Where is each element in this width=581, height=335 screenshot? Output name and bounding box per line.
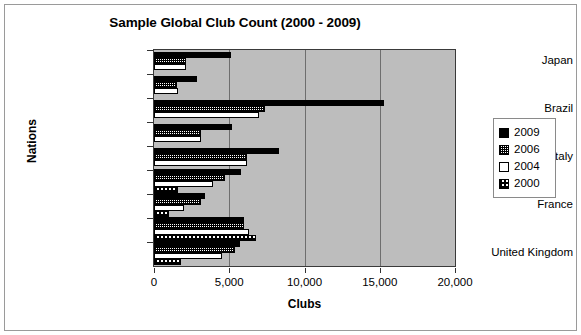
x-tick-0 — [154, 268, 155, 273]
x-tick-label-10000: 10,000 — [265, 276, 345, 288]
bar-2000-group-8 — [154, 259, 181, 265]
x-tick-15000 — [380, 268, 381, 273]
bar-2004-group-2 — [154, 112, 259, 118]
legend-item-2006[interactable]: 2006 — [499, 141, 551, 158]
x-tick-label-5000: 5,000 — [189, 276, 269, 288]
legend-swatch-2004 — [499, 162, 509, 172]
plot-area — [153, 49, 456, 267]
x-axis-title: Clubs — [153, 297, 456, 311]
x-tick-label-0: 0 — [114, 276, 194, 288]
legend-item-2000[interactable]: 2000 — [499, 175, 551, 192]
legend-swatch-2000 — [499, 179, 509, 189]
legend-item-2004[interactable]: 2004 — [499, 158, 551, 175]
x-tick-label-20000: 20,000 — [415, 276, 495, 288]
legend-item-2009[interactable]: 2009 — [499, 124, 551, 141]
legend-swatch-2006 — [499, 145, 509, 155]
legend-label-2009: 2009 — [514, 127, 540, 139]
chart-title: Sample Global Club Count (2000 - 2009) — [0, 15, 470, 30]
legend-label-2000: 2000 — [514, 178, 540, 190]
legend-label-2006: 2006 — [514, 144, 540, 156]
chart-screenshot: Sample Global Club Count (2000 - 2009) N… — [0, 0, 581, 335]
bars-container — [154, 50, 455, 266]
bar-2004-group-3 — [154, 136, 201, 142]
bar-2004-group-1 — [154, 88, 178, 94]
x-tick-label-15000: 15,000 — [340, 276, 420, 288]
gridline-20000 — [455, 50, 456, 266]
bar-2004-group-4 — [154, 160, 247, 166]
legend-label-2004: 2004 — [514, 161, 540, 173]
x-tick-20000 — [455, 268, 456, 273]
y-axis-title: Nations — [25, 96, 39, 186]
bar-2004-group-0 — [154, 64, 186, 70]
x-tick-10000 — [305, 268, 306, 273]
legend-swatch-2009 — [499, 128, 509, 138]
chart-legend: 2009200620042000 — [493, 118, 556, 198]
x-tick-5000 — [229, 268, 230, 273]
